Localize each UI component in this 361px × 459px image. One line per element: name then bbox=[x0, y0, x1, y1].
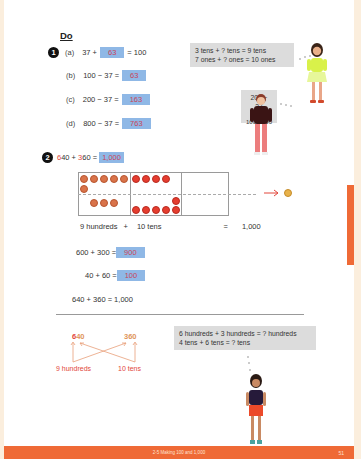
page-number: 51 bbox=[338, 450, 344, 456]
equation-right: = 100 bbox=[127, 48, 146, 57]
hundred-disc bbox=[100, 199, 108, 207]
character-girl-navy bbox=[245, 373, 267, 447]
hint-line: 7 ones + ? ones = 10 ones bbox=[195, 55, 289, 64]
section-divider bbox=[56, 314, 304, 315]
q1-item-d: (d) 800 − 37 = 763 bbox=[66, 118, 151, 129]
answer-box[interactable]: 100 bbox=[117, 270, 146, 281]
final-equation: 640 + 360 = 1,000 bbox=[72, 295, 133, 304]
item-label: (d) bbox=[66, 119, 75, 128]
label-10-tens: 10 tens bbox=[118, 365, 141, 372]
q1-item-c: (c) 200 − 37 = 163 bbox=[66, 94, 150, 105]
row-divider bbox=[78, 194, 256, 195]
digits-rest-a: 40 bbox=[61, 153, 69, 162]
item-label: (a) bbox=[65, 48, 74, 57]
ten-disc bbox=[132, 175, 140, 183]
girl-navy-illustration-icon bbox=[245, 373, 267, 447]
ten-disc bbox=[132, 206, 140, 214]
summary-equals: = bbox=[224, 222, 228, 231]
digits-rest-b: 60 bbox=[82, 153, 90, 162]
girl-yellow-illustration-icon bbox=[304, 42, 330, 112]
ten-disc bbox=[172, 197, 180, 205]
step-tens: 40 + 60 = 100 bbox=[85, 270, 145, 281]
q2-equation: 6 40 + 3 60 = 1,000 bbox=[57, 152, 124, 163]
step-left: 600 + 300 = bbox=[76, 248, 116, 257]
ten-disc bbox=[162, 206, 170, 214]
question-number-2: 2 bbox=[42, 152, 53, 163]
q1-item-a: (a) 37 + 63 = 100 bbox=[65, 47, 146, 58]
character-boy-black bbox=[249, 90, 273, 162]
answer-box[interactable]: 1,000 bbox=[99, 152, 124, 163]
item-label: (c) bbox=[66, 95, 75, 104]
answer-box[interactable]: 63 bbox=[122, 70, 146, 81]
plus-sign: + bbox=[70, 153, 79, 162]
summary-tens: 10 tens bbox=[137, 222, 162, 231]
textbook-page: Do 1 (a) 37 + 63 = 100 (b) 100 − 37 = 63… bbox=[4, 0, 354, 446]
hundred-disc bbox=[100, 175, 108, 183]
summary-plus: + bbox=[124, 222, 128, 231]
equation-left: 800 − 37 = bbox=[83, 119, 119, 128]
question-number-1: 1 bbox=[48, 47, 59, 58]
hint-bubble-q2: 6 hundreds + 3 hundreds = ? hundreds 4 t… bbox=[174, 326, 316, 350]
boy-black-illustration-icon bbox=[249, 90, 273, 162]
cross-arrows-icon bbox=[64, 340, 144, 364]
summary-result: 1,000 bbox=[242, 222, 261, 231]
equals-sign: = bbox=[91, 153, 100, 162]
hint-line: 3 tens + ? tens = 9 tens bbox=[195, 46, 289, 55]
hundred-disc bbox=[80, 175, 88, 183]
answer-box[interactable]: 900 bbox=[116, 247, 145, 258]
answer-box[interactable]: 163 bbox=[122, 94, 151, 105]
equation-left: 37 + bbox=[82, 48, 97, 57]
hundred-disc bbox=[120, 175, 128, 183]
section-heading: Do bbox=[60, 30, 73, 41]
hundred-disc bbox=[110, 175, 118, 183]
footer-title: 2-5 Making 100 and 1,000 bbox=[153, 450, 205, 455]
equation-left: 200 − 37 = bbox=[83, 95, 119, 104]
answer-box[interactable]: 763 bbox=[122, 118, 151, 129]
thousand-disc bbox=[284, 189, 292, 197]
hundred-disc bbox=[110, 199, 118, 207]
item-label: (b) bbox=[66, 71, 75, 80]
q1-item-b: (b) 100 − 37 = 63 bbox=[66, 70, 146, 81]
hundred-disc bbox=[80, 185, 88, 193]
step-left: 40 + 60 = bbox=[85, 271, 117, 280]
character-girl-yellow bbox=[304, 42, 330, 112]
ten-disc bbox=[152, 206, 160, 214]
step-hundreds: 600 + 300 = 900 bbox=[76, 247, 145, 258]
ten-disc bbox=[172, 206, 180, 214]
ten-disc bbox=[142, 175, 150, 183]
ten-disc bbox=[152, 175, 160, 183]
hint-line: 6 hundreds + 3 hundreds = ? hundreds bbox=[179, 329, 311, 338]
hundred-disc bbox=[90, 199, 98, 207]
answer-box[interactable]: 63 bbox=[100, 47, 124, 58]
page-footer: 2-5 Making 100 and 1,000 51 bbox=[4, 446, 354, 459]
arrow-right-icon bbox=[264, 189, 284, 197]
summary-hundreds: 9 hundreds bbox=[80, 222, 118, 231]
hundred-disc bbox=[90, 175, 98, 183]
summary-line: 9 hundreds + 10 tens = 1,000 bbox=[80, 222, 300, 231]
chapter-side-tab bbox=[347, 185, 354, 265]
hint-line: 4 tens + 6 tens = ? tens bbox=[179, 338, 311, 347]
ten-disc bbox=[162, 175, 170, 183]
ten-disc bbox=[142, 206, 150, 214]
equation-left: 100 − 37 = bbox=[83, 71, 119, 80]
hint-bubble-q1: 3 tens + ? tens = 9 tens 7 ones + ? ones… bbox=[190, 43, 294, 67]
label-9-hundreds: 9 hundreds bbox=[56, 365, 91, 372]
